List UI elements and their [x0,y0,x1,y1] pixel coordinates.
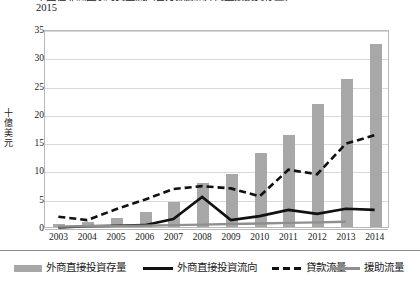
y-axis-tick-label: 35 [10,25,44,35]
chart-container: 中國在非洲國家的資金流入官方數據和外商直接投資存量，2003– 2015 十億美… [0,0,420,284]
legend-label: 援助流量 [364,261,404,275]
chart-legend: 外商直接投資存量外商直接投資流向貸款流量援助流量 [0,250,420,284]
x-axis-tick-label: 2014 [358,232,392,243]
gridline [45,229,388,230]
legend-label: 外商直接投資存量 [46,261,126,275]
legend-marker-icon [272,267,302,270]
legend-item[interactable]: 援助流量 [330,259,404,277]
legend-marker-icon [14,265,42,272]
legend-item[interactable]: 外商直接投資存量 [14,259,126,277]
legend-marker-icon [143,267,173,270]
y-axis-tick-label: 25 [10,82,44,92]
y-axis-tick-label: 15 [10,138,44,148]
line-series [58,222,346,227]
y-axis-tick-label: 0 [10,223,44,233]
y-axis-tick-label: 20 [10,110,44,120]
y-axis-tick-label: 10 [10,166,44,176]
chart-title-line1: 中國在非洲國家的資金流入官方數據和外商直接投資存量，2003– [36,0,319,3]
y-axis-tick-label: 30 [10,53,44,63]
line-series-overlay [44,30,389,228]
chart-title-line2: 2015 [36,2,57,14]
legend-item[interactable]: 外商直接投資流向 [143,259,257,277]
y-axis-tick-label: 5 [10,195,44,205]
legend-row: 外商直接投資存量外商直接投資流向貸款流量援助流量 [0,259,420,279]
legend-label: 外商直接投資流向 [177,261,257,275]
legend-marker-icon [330,267,360,270]
